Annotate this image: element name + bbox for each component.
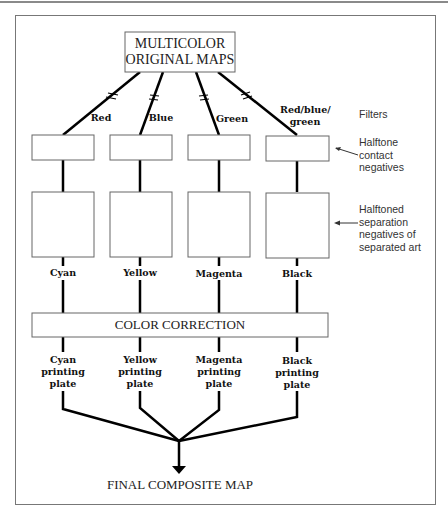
final-map-label: FINAL COMPOSITE MAP — [100, 477, 260, 493]
halftone-line-2: contact — [359, 149, 404, 162]
sep-yellow-label: Yellow — [110, 267, 170, 279]
plate-cyan-line-3: plate — [28, 378, 98, 390]
halftone-line-3: negatives — [359, 161, 404, 174]
plate-magenta: Magenta printing plate — [184, 354, 254, 390]
plate-yellow: Yellow printing plate — [105, 354, 175, 390]
separation-line-3: negatives of — [359, 228, 421, 241]
sep-black-label: Black — [267, 268, 327, 280]
plate-cyan-line-1: Cyan — [28, 354, 98, 366]
color-correction-label: COLOR CORRECTION — [32, 317, 328, 333]
plate-black-line-2: printing — [262, 367, 332, 379]
separation-label: Halftoned separation negatives of separa… — [359, 203, 421, 253]
plate-yellow-line-3: plate — [105, 378, 175, 390]
source-line-2: ORIGINAL MAPS — [125, 52, 235, 68]
plate-magenta-line-1: Magenta — [184, 354, 254, 366]
halftone-line-1: Halftone — [359, 136, 404, 149]
plate-magenta-line-2: printing — [184, 366, 254, 378]
separation-line-4: separated art — [359, 241, 421, 254]
plate-magenta-line-3: plate — [184, 378, 254, 390]
separation-line-1: Halftoned — [359, 203, 421, 216]
filter-green-label: Green — [212, 113, 252, 125]
plate-yellow-line-2: printing — [105, 366, 175, 378]
halftone-contact-label: Halftone contact negatives — [359, 136, 404, 174]
plate-cyan-line-2: printing — [28, 366, 98, 378]
plate-cyan: Cyan printing plate — [28, 354, 98, 390]
filter-rgb-label: Red/blue/ green — [280, 104, 330, 128]
filter-blue-label: Blue — [146, 112, 176, 124]
plate-black-line-3: plate — [262, 379, 332, 391]
plate-yellow-line-1: Yellow — [105, 354, 175, 366]
sep-cyan-label: Cyan — [33, 267, 93, 279]
filters-label: Filters — [359, 108, 388, 121]
plate-black: Black printing plate — [262, 355, 332, 391]
flow-lines — [0, 0, 448, 512]
separation-line-2: separation — [359, 216, 421, 229]
source-line-1: MULTICOLOR — [125, 36, 235, 52]
plate-black-line-1: Black — [262, 355, 332, 367]
sep-magenta-label: Magenta — [189, 268, 249, 280]
filter-red-label: Red — [86, 112, 116, 124]
source-box-label: MULTICOLOR ORIGINAL MAPS — [125, 36, 235, 68]
